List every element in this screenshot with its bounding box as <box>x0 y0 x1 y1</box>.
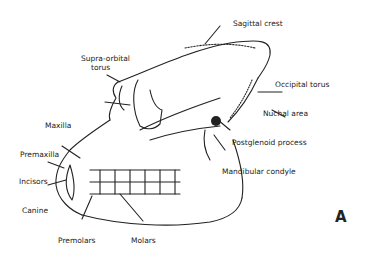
label-sagittal-crest: Sagittal crest <box>233 20 283 28</box>
skull-drawing <box>0 0 366 263</box>
label-maxilla: Maxilla <box>45 122 71 130</box>
label-incisors: Incisors <box>19 178 48 186</box>
panel-letter: A <box>335 208 347 226</box>
label-premolars: Premolars <box>58 237 96 245</box>
label-nuchal-area: Nuchal area <box>263 110 308 118</box>
label-molars: Molars <box>131 237 156 245</box>
label-postglenoid-process: Postglenoid process <box>232 139 307 147</box>
label-mandibular-condyle: Mandibular condyle <box>222 168 296 176</box>
label-occipital-torus: Occipital torus <box>275 81 329 89</box>
label-torus: torus <box>91 64 110 72</box>
label-canine: Canine <box>22 207 48 215</box>
label-supra-orbital: Supra-orbital <box>81 55 130 63</box>
label-premaxilla: Premaxilla <box>20 151 59 159</box>
